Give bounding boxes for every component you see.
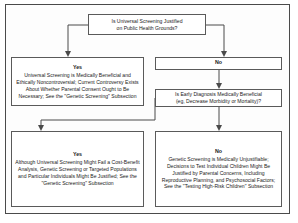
root-decision-line2: on Public Health Grounds? — [117, 25, 178, 32]
no-branch-1-label: No — [215, 59, 222, 66]
yes-branch-1-label: Yes — [73, 64, 82, 71]
root-decision-node[interactable]: Is Universal Screening Justified on Publ… — [88, 14, 206, 35]
flowchart-canvas: Is Universal Screening Justified on Publ… — [0, 0, 298, 223]
second-decision-node[interactable]: Is Early Diagnosis Medically Beneficial … — [155, 89, 282, 107]
second-decision-line2: (eg, Decrease Morbidity or Mortality)? — [176, 98, 261, 105]
yes-branch-2-label: Yes — [73, 151, 82, 158]
yes-branch-2-text: Although Universal Screening Might Fail … — [14, 159, 141, 187]
no-branch-2-node[interactable]: No Genetic Screening is Medically Unjust… — [155, 131, 282, 207]
root-decision-line1: Is Universal Screening Justified — [111, 18, 182, 25]
no-branch-1-node[interactable]: No — [155, 57, 282, 70]
yes-branch-1-node[interactable]: Yes Universal Screening is Medically Ben… — [11, 57, 144, 106]
second-decision-line1: Is Early Diagnosis Medically Beneficial — [175, 91, 262, 98]
yes-branch-2-node[interactable]: Yes Although Universal Screening Might F… — [11, 131, 144, 207]
no-branch-2-label: No — [215, 148, 222, 155]
no-branch-2-text: Genetic Screening is Medically Unjustifi… — [158, 156, 279, 191]
yes-branch-1-text: Universal Screening is Medically Benefic… — [14, 72, 141, 100]
